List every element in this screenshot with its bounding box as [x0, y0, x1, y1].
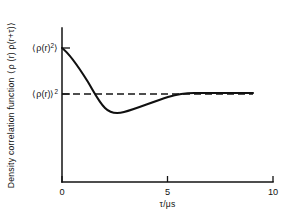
label-mean-density-squared-superscript: 2 — [54, 88, 58, 95]
density-correlation-chart: 0 5 10 τ/μs ⟨ρ(r)2⟩ ⟨ρ(r)⟩2 Density corr… — [0, 0, 288, 212]
label-mean-density-squared: ⟨ρ(r)⟩2 — [32, 88, 58, 99]
label-mean-density-squared-base: ⟨ρ(r)⟩ — [32, 89, 54, 99]
x-tick-label-5: 5 — [165, 187, 170, 197]
label-mean-square-density-closing: ⟩ — [54, 43, 58, 53]
label-mean-square-density-base: ⟨ρ(r) — [32, 43, 50, 53]
label-mean-square-density: ⟨ρ(r)2⟩ — [32, 42, 58, 53]
y-axis-title-expression: ⟨ρ (r) ρ(r+τ)⟩ — [6, 22, 16, 74]
x-axis-title: τ/μs — [159, 199, 175, 209]
y-axis-title: Density correlation function⟨ρ (r) ρ(r+τ… — [6, 22, 16, 188]
x-tick-label-10: 10 — [268, 187, 278, 197]
figure-container: 0 5 10 τ/μs ⟨ρ(r)2⟩ ⟨ρ(r)⟩2 Density corr… — [0, 0, 288, 212]
y-axis-title-text: Density correlation function — [6, 77, 16, 188]
density-correlation-curve — [62, 48, 253, 113]
x-tick-label-0: 0 — [59, 187, 64, 197]
